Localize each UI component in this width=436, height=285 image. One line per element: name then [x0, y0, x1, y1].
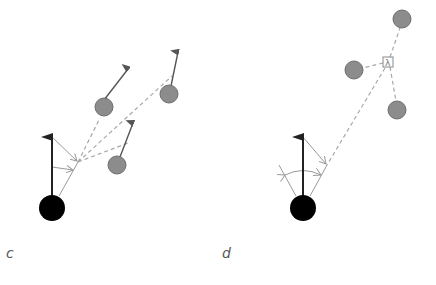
neighbor-2: [160, 52, 178, 103]
construction-lines: [52, 137, 78, 196]
neighbor-circle: [95, 98, 113, 116]
field-of-view-right: [310, 165, 327, 196]
diagram-canvas: c λ d: [0, 0, 436, 285]
diagonal-arrow-line: [52, 137, 77, 161]
neighbor-velocity-arrow: [120, 123, 133, 157]
neighbor-circle: [108, 156, 126, 174]
dashed-link-neighbor-bottom: [390, 67, 396, 101]
neighbor-circle: [160, 85, 178, 103]
centroid-glyph: λ: [385, 58, 391, 68]
centroid-marker: λ: [383, 57, 393, 68]
dashed-link-neighbor-left: [363, 63, 383, 68]
panel-d: λ d: [222, 10, 411, 261]
panel-label-d: d: [222, 245, 231, 261]
dashed-link-neighbor-top: [390, 28, 400, 57]
side-line: [59, 162, 78, 196]
dashed-links: [78, 76, 172, 162]
neighbor-1: [95, 69, 128, 116]
neighbor-circle-bottom: [388, 101, 406, 119]
panel-c: c: [6, 52, 178, 261]
dashed-link-neighbor-2: [78, 76, 172, 162]
dashed-links: [327, 28, 400, 165]
neighbor-circle-left: [345, 61, 363, 79]
field-of-view-left: [279, 165, 296, 196]
neighbor-3: [108, 123, 133, 174]
agent-circle: [39, 195, 65, 221]
neighbor-circle-top: [393, 10, 411, 28]
diagonal-arrow-line: [303, 137, 326, 164]
neighbor-velocity-arrow: [104, 69, 128, 100]
horizontal-arrow-line: [52, 167, 73, 170]
dashed-link-neighbor-1: [78, 118, 100, 162]
neighbor-velocity-arrow: [171, 52, 178, 86]
panel-label-c: c: [6, 245, 14, 261]
agent-circle: [290, 195, 316, 221]
dashed-link-to-agent: [327, 68, 385, 165]
